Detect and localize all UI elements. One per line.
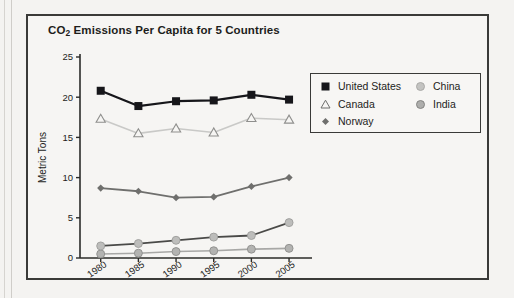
data-point-marker [285, 219, 293, 227]
data-point-marker [97, 250, 105, 258]
x-axis-tick-label: 1985 [123, 259, 147, 280]
data-point-marker [172, 248, 180, 256]
y-axis-tick-label: 25 [62, 51, 73, 62]
open-triangle-marker [320, 99, 331, 110]
light-circle-marker [415, 81, 426, 92]
chart-container: CO2 Emissions Per Capita for 5 Countries… [26, 14, 489, 280]
data-point-marker [172, 97, 180, 105]
x-axis-tick-label: 1990 [160, 259, 184, 280]
series-norway [97, 174, 293, 201]
series-line [101, 91, 289, 106]
x-axis-tick-label: 1980 [85, 259, 109, 280]
filled-diamond-marker [320, 116, 331, 127]
data-point-marker [97, 87, 105, 95]
line-chart-svg: 0510152025Metric Tons1980198519901995200… [28, 16, 491, 282]
data-point-marker [285, 174, 292, 181]
data-point-marker [134, 249, 142, 257]
series-china [97, 219, 293, 250]
series-united-states [97, 87, 293, 110]
legend-item-norway[interactable]: Norway [320, 115, 374, 127]
y-axis-tick-label: 15 [62, 132, 73, 143]
plot-area: 0510152025Metric Tons1980198519901995200… [28, 16, 491, 282]
data-point-marker [210, 193, 217, 200]
data-point-marker [97, 242, 105, 250]
data-point-marker [247, 245, 255, 253]
x-axis-tick-label: 1995 [198, 259, 222, 280]
legend-item-label: United States [338, 80, 401, 92]
data-point-marker [285, 244, 293, 252]
data-point-marker [97, 184, 104, 191]
legend-item-label: India [433, 98, 456, 110]
series-line [101, 178, 289, 198]
page-gutter-line-inner [11, 0, 12, 298]
x-axis-tick-label: 2000 [236, 259, 260, 280]
data-point-marker [171, 124, 180, 132]
y-axis-title: Metric Tons [37, 132, 48, 183]
y-axis-tick-label: 5 [68, 212, 73, 223]
data-point-marker [134, 102, 142, 110]
data-point-marker [210, 96, 218, 104]
legend-item-label: Canada [338, 98, 375, 110]
filled-square-marker [320, 81, 331, 92]
data-point-marker [134, 240, 142, 248]
y-axis-tick-label: 10 [62, 172, 73, 183]
data-point-marker [135, 188, 142, 195]
data-point-marker [172, 236, 180, 244]
series-line [101, 248, 289, 254]
legend-item-label: China [433, 80, 460, 92]
series-india [97, 244, 293, 258]
legend-item-united-states[interactable]: United States [320, 80, 401, 92]
data-point-marker [172, 194, 179, 201]
y-axis-tick-label: 20 [62, 92, 73, 103]
data-point-marker [248, 183, 255, 190]
data-point-marker [96, 114, 105, 122]
series-line [101, 223, 289, 246]
y-axis-tick-label: 0 [68, 252, 73, 263]
data-point-marker [247, 231, 255, 239]
chart-legend: United StatesCanadaNorwayChinaIndia [310, 73, 481, 133]
legend-item-label: Norway [338, 115, 374, 127]
series-canada [96, 114, 294, 137]
legend-item-canada[interactable]: Canada [320, 98, 375, 110]
data-point-marker [210, 233, 218, 241]
page-gutter-line [4, 0, 5, 298]
page-canvas: CO2 Emissions Per Capita for 5 Countries… [0, 0, 514, 298]
data-point-marker [247, 91, 255, 99]
data-point-marker [285, 96, 293, 104]
legend-item-india[interactable]: India [415, 98, 456, 110]
series-line [101, 118, 289, 133]
data-point-marker [210, 247, 218, 255]
legend-item-china[interactable]: China [415, 80, 460, 92]
gray-circle-marker [415, 99, 426, 110]
x-axis-tick-label: 2005 [273, 259, 297, 280]
